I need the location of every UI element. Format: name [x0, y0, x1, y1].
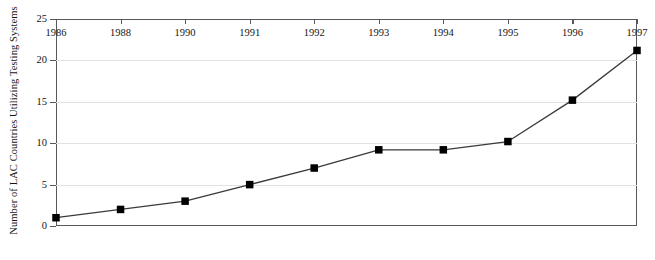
y-tick-mark — [50, 185, 56, 186]
x-tick-label: 1996 — [562, 28, 583, 39]
data-point-marker — [633, 47, 641, 55]
data-point-marker — [246, 181, 254, 189]
x-tick-label: 1990 — [175, 28, 196, 39]
x-tick-label: 1995 — [497, 28, 518, 39]
data-point-marker — [52, 214, 60, 222]
data-point-marker — [569, 96, 577, 104]
y-tick-label: 0 — [42, 221, 47, 232]
y-tick-mark — [50, 102, 56, 103]
plot-area: 0510152025 19861988199019911992199319941… — [56, 19, 637, 226]
x-tick-label: 1997 — [627, 28, 648, 39]
y-tick-label: 20 — [37, 55, 48, 66]
data-point-marker — [117, 206, 125, 214]
y-tick-mark — [50, 60, 56, 61]
series-line — [56, 50, 637, 217]
x-tick-label: 1992 — [304, 28, 325, 39]
x-tick-mark — [314, 19, 315, 24]
line-chart: Number of LAC Countries Utilizing Testin… — [0, 0, 655, 260]
x-tick-mark — [379, 19, 380, 24]
data-point-marker — [504, 138, 512, 146]
x-tick-label: 1986 — [46, 28, 67, 39]
x-tick-mark — [250, 19, 251, 24]
x-tick-label: 1991 — [239, 28, 260, 39]
y-axis-title: Number of LAC Countries Utilizing Testin… — [0, 0, 26, 240]
y-tick-mark — [50, 226, 56, 227]
y-tick-label: 25 — [37, 14, 48, 25]
y-tick-mark — [50, 143, 56, 144]
x-tick-mark — [185, 19, 186, 24]
y-tick-label: 10 — [37, 138, 48, 149]
x-tick-mark — [121, 19, 122, 24]
data-point-marker — [375, 146, 383, 154]
y-axis-title-label: Number of LAC Countries Utilizing Testin… — [8, 6, 19, 235]
data-series — [56, 19, 637, 226]
x-tick-mark — [572, 19, 573, 24]
x-tick-mark — [56, 19, 57, 24]
x-tick-mark — [508, 19, 509, 24]
x-tick-label: 1994 — [433, 28, 454, 39]
x-tick-mark — [443, 19, 444, 24]
y-tick-label: 5 — [42, 179, 47, 190]
data-point-marker — [310, 164, 318, 172]
y-tick-label: 15 — [37, 97, 48, 108]
x-tick-label: 1993 — [368, 28, 389, 39]
x-tick-label: 1988 — [110, 28, 131, 39]
x-tick-mark — [637, 19, 638, 24]
data-point-marker — [440, 146, 448, 154]
data-point-marker — [181, 197, 189, 205]
